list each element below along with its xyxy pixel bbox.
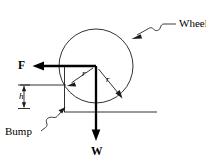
weight-arrowhead [92,130,101,142]
radius-right-label: r [106,75,110,84]
wheel-leader-arrowhead [132,34,143,39]
bump-label: Bump [5,126,32,137]
weight-label: W [91,146,103,158]
radius-left-label: r [82,69,86,78]
wheel-bump-diagram: Wheel Bump F W r r h [0,0,206,167]
wheel-leader-line [137,24,176,35]
bump-leader-line [41,111,62,131]
force-label: F [18,60,25,72]
height-label: h [19,92,24,101]
radius-left-arrowhead [67,82,76,86]
height-dimension-arrowhead-down [22,102,26,107]
force-arrowhead [33,62,45,71]
diagram-canvas [0,0,206,167]
wheel-label: Wheel [179,18,206,29]
